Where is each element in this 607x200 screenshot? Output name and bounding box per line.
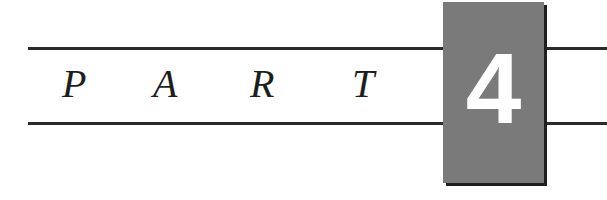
bottom-rule-right	[547, 122, 607, 125]
part-letter: R	[250, 64, 274, 104]
part-number: 4	[443, 38, 544, 138]
part-number-box: 4	[443, 2, 544, 183]
bottom-rule-left	[28, 122, 444, 125]
top-rule-right	[547, 47, 607, 50]
part-letter: P	[62, 64, 86, 104]
part-letter: A	[153, 64, 177, 104]
part-letter: T	[352, 64, 374, 104]
top-rule-left	[28, 47, 444, 50]
